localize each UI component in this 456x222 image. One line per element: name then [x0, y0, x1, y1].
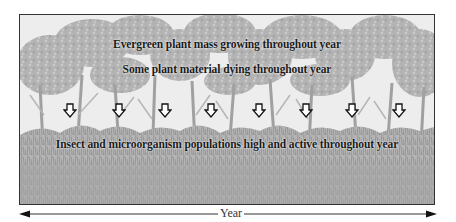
- insects-label: Insect and microorganism populations hig…: [20, 138, 434, 150]
- growth-label: Evergreen plant mass growing throughout …: [20, 38, 434, 50]
- down-arrow-icon: [252, 103, 266, 118]
- down-arrow-icon: [392, 103, 406, 118]
- year-timeline: Year: [19, 207, 437, 221]
- down-arrow-icon: [345, 103, 359, 118]
- down-arrow-icon: [158, 103, 172, 118]
- down-arrow-icon: [204, 103, 218, 118]
- down-arrow-icon: [112, 103, 126, 118]
- down-arrow-icon: [63, 103, 77, 118]
- dying-label: Some plant material dying throughout yea…: [20, 63, 434, 75]
- year-label: Year: [218, 206, 244, 220]
- rainforest-diagram-frame: Evergreen plant mass growing throughout …: [19, 14, 435, 205]
- down-arrow-icon: [299, 103, 313, 118]
